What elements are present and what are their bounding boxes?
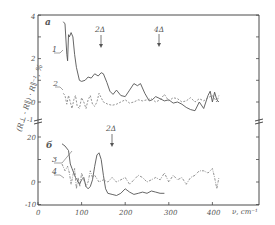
x-axis-label: ν, cm⁻¹ — [232, 208, 258, 216]
data-series — [62, 22, 219, 196]
panel-label-b: б — [46, 140, 53, 150]
arrow-head-icon — [99, 44, 103, 48]
arrow-head-icon — [157, 43, 161, 47]
series-curve-2 — [63, 93, 219, 108]
curve-label-2: 2 — [52, 79, 58, 88]
series-curve-1 — [63, 22, 219, 111]
x-tick-label: 0 — [36, 209, 41, 217]
x-tick-label: 300 — [164, 209, 178, 217]
series-curve-3 — [62, 144, 164, 196]
x-tick-label: 400 — [206, 209, 221, 217]
spectral-anisotropy-figure: 0 100 200 300 400 ν, cm⁻¹ 4 2 0 -1 20 0 … — [0, 0, 275, 225]
y-tick-label-b: 20 — [26, 134, 36, 142]
curve-label-3: 3 — [52, 155, 57, 164]
annotation-2delta-a: 2Δ — [94, 25, 105, 34]
y-tick-label-a: 4 — [30, 13, 35, 21]
y-tick-label-b: -10 — [25, 201, 37, 209]
y-tick-label-b: 0 — [31, 179, 36, 187]
series-curve-4 — [62, 164, 219, 189]
curve-label-1: 1 — [52, 45, 57, 54]
x-tick-label: 100 — [75, 209, 89, 217]
chart-canvas: 0 100 200 300 400 ν, cm⁻¹ 4 2 0 -1 20 0 … — [0, 0, 275, 225]
curve-label-4: 4 — [51, 167, 57, 176]
y-axis-break-label: -1 — [27, 116, 33, 124]
annotation-4delta-a: 4Δ — [153, 25, 164, 34]
x-tick-label: 200 — [118, 209, 133, 217]
panel-label-a: a — [45, 17, 51, 27]
arrow-head-icon — [110, 143, 114, 147]
y-tick-label-a: 2 — [30, 55, 36, 63]
annotation-2delta-b: 2Δ — [105, 124, 116, 133]
